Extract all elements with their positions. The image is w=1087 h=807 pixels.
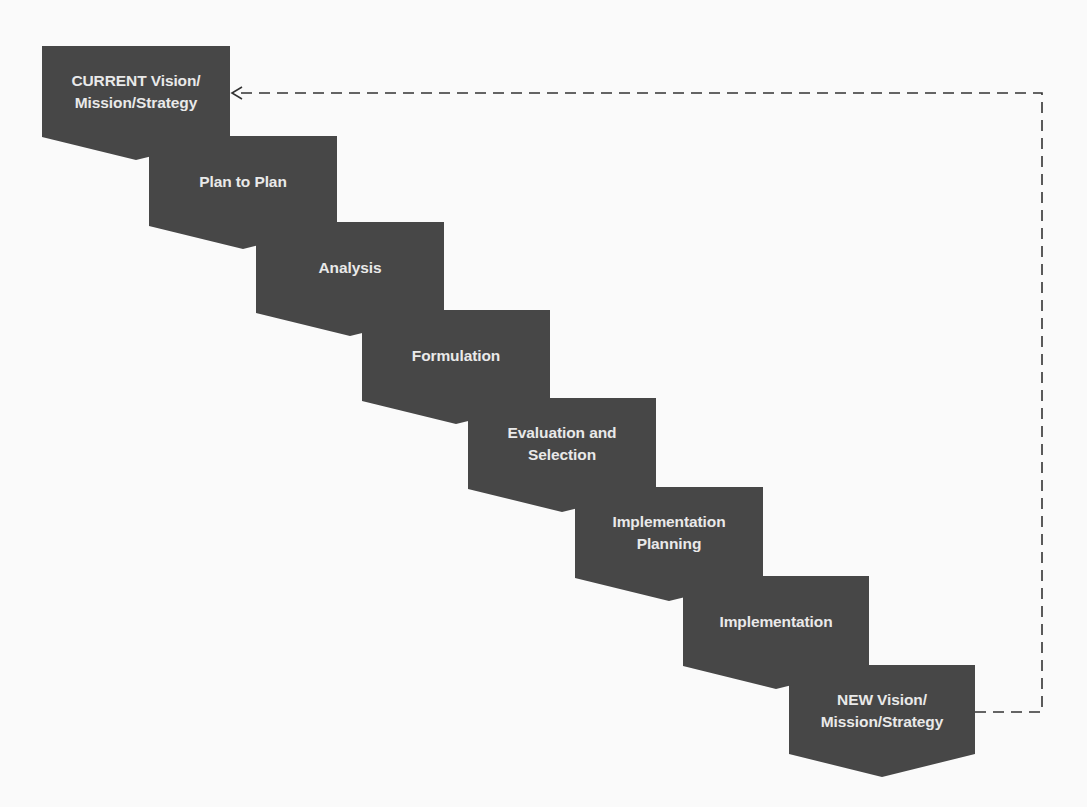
strategic-planning-staircase-diagram: CURRENT Vision/ Mission/Strategy Plan to… xyxy=(0,0,1087,807)
step-label: CURRENT Vision/ Mission/Strategy xyxy=(42,46,230,137)
step-label: Implementation xyxy=(683,576,869,667)
step-label: NEW Vision/ Mission/Strategy xyxy=(789,665,975,756)
step-label: Evaluation and Selection xyxy=(468,398,656,489)
step-new-vision-mission-strategy: NEW Vision/ Mission/Strategy xyxy=(789,665,977,779)
step-label: Plan to Plan xyxy=(149,136,337,227)
step-label: Analysis xyxy=(256,222,444,313)
arrowhead-icon xyxy=(232,87,242,99)
step-label: Formulation xyxy=(362,310,550,401)
step-label: Implementation Planning xyxy=(575,487,763,578)
